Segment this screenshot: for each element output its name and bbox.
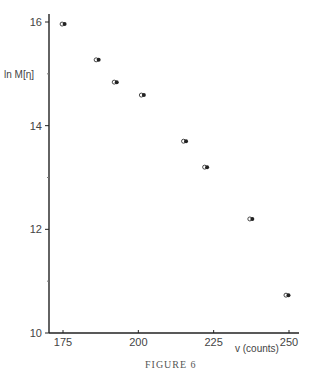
filled-circle-marker xyxy=(205,165,209,169)
data-point-pair xyxy=(248,217,255,221)
scatter-chart: 10121416 175200225250 ln M[η] v (counts) xyxy=(0,0,315,369)
data-points xyxy=(60,22,290,297)
filled-circle-marker xyxy=(115,80,119,84)
data-point-pair xyxy=(284,293,291,297)
data-point-pair xyxy=(182,139,189,143)
data-point-pair xyxy=(94,58,101,62)
data-point-pair xyxy=(112,80,119,84)
y-tick-label: 16 xyxy=(30,16,42,28)
data-point-pair xyxy=(203,165,210,169)
filled-circle-marker xyxy=(250,217,254,221)
figure-caption: FIGURE 6 xyxy=(145,359,197,369)
filled-circle-marker xyxy=(97,58,101,62)
x-axis-title: v (counts) xyxy=(235,343,279,354)
y-tick-label: 14 xyxy=(30,120,42,132)
x-tick-label: 200 xyxy=(129,336,147,348)
filled-circle-marker xyxy=(63,22,67,26)
y-tick-label: 10 xyxy=(30,327,42,339)
filled-circle-marker xyxy=(286,293,290,297)
axes xyxy=(49,14,299,333)
data-point-pair xyxy=(139,93,146,97)
filled-circle-marker xyxy=(184,139,188,143)
filled-circle-marker xyxy=(142,93,146,97)
y-axis-title: ln M[η] xyxy=(4,69,34,80)
data-point-pair xyxy=(60,22,67,26)
y-ticks: 10121416 xyxy=(30,16,49,339)
y-tick-label: 12 xyxy=(30,223,42,235)
x-tick-label: 250 xyxy=(280,336,298,348)
x-tick-label: 175 xyxy=(54,336,72,348)
x-tick-label: 225 xyxy=(204,336,222,348)
